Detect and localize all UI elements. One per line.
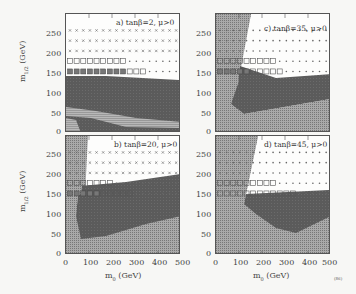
x-axis-title-right: m0 (GeV) <box>253 271 289 282</box>
marker-rows <box>70 35 180 36</box>
y-axis-title-top: m1/2 (GeV) <box>18 41 29 82</box>
panel-d: d) tanβ=45, μ>0 <box>215 135 330 254</box>
y-axis-title-bottom: m1/2 (GeV) <box>18 171 29 212</box>
panel-b: b) tanβ=20, μ>0 <box>65 135 180 254</box>
panel-a-plot <box>66 14 180 132</box>
panel-d-title: d) tanβ=45, μ>0 <box>264 140 327 149</box>
panel-c: c) tanβ=35, μ>0 <box>215 13 330 132</box>
figure-code: (86) <box>334 276 342 281</box>
panel-d-plot <box>216 136 330 254</box>
row-250 <box>70 35 180 36</box>
panel-a-title: a) tanβ=2, μ>0 <box>116 18 174 27</box>
x-axis-title-left: m0 (GeV) <box>105 271 141 282</box>
panel-b-plot <box>66 136 180 254</box>
panel-b-title: b) tanβ=20, μ>0 <box>114 140 177 149</box>
panel-a: a) tanβ=2, μ>0 <box>65 13 180 132</box>
panel-c-title: c) tanβ=35, μ>0 <box>264 24 327 33</box>
